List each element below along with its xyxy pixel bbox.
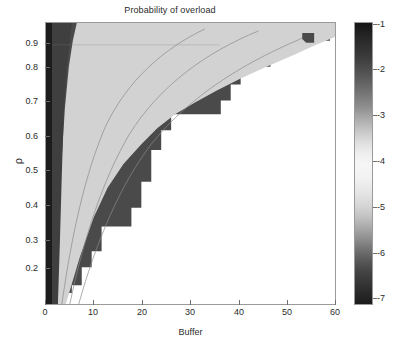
- xtick-10: [93, 300, 94, 305]
- xtick-label-60: 60: [320, 307, 350, 317]
- colorbar-label--5: -5: [377, 202, 401, 212]
- colorbar-label--3: -3: [377, 110, 401, 120]
- contour-surface: [46, 23, 335, 304]
- ytick-0p6: [45, 136, 50, 137]
- ytick-0p2: [45, 268, 50, 269]
- ytick-label-0p4: 0.4: [8, 200, 38, 210]
- plot-area: [45, 22, 336, 305]
- xtick-60: [335, 300, 336, 305]
- colorbar-label--1: -1: [377, 19, 401, 29]
- colorbar-label--2: -2: [377, 64, 401, 74]
- ytick-0p4: [45, 205, 50, 206]
- colorbar-label--7: -7: [377, 293, 401, 303]
- ytick-0p5: [45, 170, 50, 171]
- colorbar-label--4: -4: [377, 156, 401, 166]
- xtick-0: [45, 300, 46, 305]
- xtick-label-0: 0: [30, 307, 60, 317]
- xtick-20: [142, 300, 143, 305]
- ytick-label-0p3: 0.3: [8, 235, 38, 245]
- ytick-0p3: [45, 240, 50, 241]
- xtick-label-10: 10: [78, 307, 108, 317]
- ytick-label-0p7: 0.7: [8, 96, 38, 106]
- xtick-label-30: 30: [175, 307, 205, 317]
- ytick-label-0p2: 0.2: [8, 263, 38, 273]
- xtick-label-50: 50: [272, 307, 302, 317]
- ytick-label-0p8: 0.8: [8, 62, 38, 72]
- xtick-label-20: 20: [127, 307, 157, 317]
- colorbar-label--6: -6: [377, 248, 401, 258]
- xtick-30: [190, 300, 191, 305]
- ytick-0p7: [45, 101, 50, 102]
- chart-title: Probability of overload: [0, 5, 340, 15]
- xtick-label-40: 40: [224, 307, 254, 317]
- xtick-50: [287, 300, 288, 305]
- ytick-0p9: [45, 43, 50, 44]
- ytick-0p8: [45, 67, 50, 68]
- y-axis-label: ρ: [12, 131, 24, 191]
- colorbar: [354, 22, 373, 305]
- xtick-40: [239, 300, 240, 305]
- figure-contour-plot: Probability of overload: [0, 0, 404, 352]
- ytick-label-0p9: 0.9: [8, 38, 38, 48]
- colorbar-gradient: [355, 23, 372, 304]
- x-axis-label: Buffer: [45, 327, 336, 337]
- contour-band-level-1: [46, 23, 52, 304]
